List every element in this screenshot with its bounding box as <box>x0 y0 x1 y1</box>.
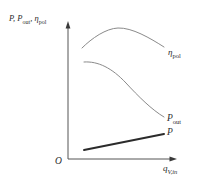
x-axis-label: qV,in <box>163 164 177 175</box>
curve-eta-pol <box>82 28 164 48</box>
curve-label-eta-pol: ηpol <box>168 48 181 59</box>
figure-container: P, Pout, ηpol qV,in O ηpol Pout P <box>0 0 200 183</box>
plot-area <box>0 0 200 183</box>
x-axis-arrowhead <box>170 157 178 162</box>
y-axis-label: P, Pout, ηpol <box>9 14 46 25</box>
y-axis-label-eta: ηpol <box>34 13 46 23</box>
curve-p <box>84 134 164 150</box>
x-axis-label-sub: V,in <box>168 168 178 175</box>
curve-label-p-out: Pout <box>167 114 181 125</box>
y-axis-arrowhead <box>66 21 71 29</box>
y-axis-label-pout: Pout <box>17 13 30 23</box>
origin-label: O <box>55 157 62 167</box>
curve-p-out <box>84 62 164 117</box>
curve-label-p: P <box>167 128 173 138</box>
